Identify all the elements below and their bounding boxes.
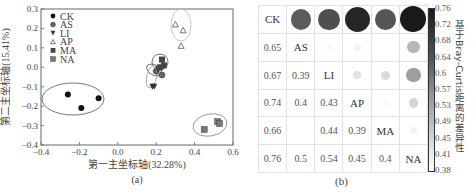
dissimilarity-value: 0.4 — [287, 90, 315, 118]
value-circle — [354, 44, 361, 51]
dissimilarity-value — [287, 117, 315, 145]
dissimilarity-circle — [372, 34, 400, 62]
dissimilarity-circle — [372, 90, 400, 118]
value-circle — [291, 9, 311, 29]
marker-na — [217, 121, 223, 127]
colorbar-tick-label: 0.68 — [435, 35, 451, 45]
marker-as — [51, 22, 56, 27]
marker-ma — [159, 57, 165, 63]
dissimilarity-circle — [400, 62, 428, 90]
colorbar-tick-label: 0.53 — [435, 100, 451, 110]
dissimilarity-circle — [400, 34, 428, 62]
panel-b-caption: (b) — [335, 175, 348, 187]
colorbar-tick-label: 0.72 — [435, 19, 451, 29]
ck-ellipse — [42, 83, 104, 115]
dissimilarity-value: 0.76 — [259, 145, 287, 173]
bray-curtis-heatmap-panel: CK0.65AS0.670.39LI0.740.40.43AP0.660.440… — [240, 0, 474, 192]
dissimilarity-circle — [343, 34, 371, 62]
dissimilarity-value: 0.39 — [287, 62, 315, 90]
marker-ck — [51, 14, 56, 19]
dissimilarity-value: 0.5 — [287, 145, 315, 173]
y-tick-label: −0.1 — [22, 82, 38, 92]
value-circle — [410, 127, 417, 134]
marker-as — [159, 72, 165, 78]
dissimilarity-circle — [372, 6, 400, 34]
y-tick-label: 0.3 — [27, 4, 39, 14]
dissimilarity-value: 0.39 — [343, 117, 371, 145]
diagonal-label-li: LI — [315, 62, 343, 90]
marker-ap — [172, 22, 178, 27]
y-tick-label: 0.1 — [27, 43, 38, 53]
dissimilarity-value: 0.67 — [259, 62, 287, 90]
y-tick-label: −0.4 — [22, 140, 39, 150]
dissimilarity-value: 0.44 — [315, 117, 343, 145]
dissimilarity-circle — [287, 6, 315, 34]
colorbar-title: 基于Bray-Curtis距离的差异性 — [452, 20, 466, 153]
value-circle — [375, 9, 396, 30]
marker-ck — [78, 105, 84, 111]
value-circle — [345, 7, 370, 32]
dissimilarity-value: 0.4 — [372, 145, 400, 173]
value-circle — [406, 68, 420, 82]
marker-ap — [178, 43, 184, 48]
diagonal-label-ap: AP — [343, 90, 371, 118]
dissimilarity-circle — [315, 6, 343, 34]
colorbar-tick-label: 0.76 — [435, 3, 451, 13]
value-circle — [409, 98, 419, 108]
marker-ap — [51, 39, 56, 43]
y-axis-label: 第二主坐标轴(15.41%) — [0, 28, 12, 126]
value-circle — [407, 41, 419, 53]
colorbar-tick-label: 0.49 — [435, 116, 451, 126]
legend: CKASLIAPMANA — [51, 11, 77, 65]
dissimilarity-value: 0.43 — [315, 90, 343, 118]
dissimilarity-circle — [400, 90, 428, 118]
value-circle — [381, 71, 390, 80]
legend-label-na: NA — [60, 54, 75, 65]
value-circle — [318, 9, 339, 30]
dissimilarity-circle — [400, 6, 428, 34]
colorbar-tick-label: 0.41 — [435, 149, 451, 159]
dissimilarity-circle — [343, 6, 371, 34]
marker-li — [51, 31, 56, 36]
heatmap-grid: CK0.65AS0.670.39LI0.740.40.43AP0.660.440… — [258, 5, 428, 173]
dissimilarity-value: 0.54 — [315, 145, 343, 173]
marker-ap — [180, 27, 186, 32]
y-tick-label: 0.2 — [27, 23, 38, 33]
x-tick-label: 0.6 — [227, 147, 239, 157]
colorbar-tick-label: 0.57 — [435, 84, 451, 94]
x-tick-label: 0.2 — [151, 147, 162, 157]
colorbar — [428, 8, 435, 172]
y-tick-label: −0.3 — [22, 121, 39, 131]
dissimilarity-value: 0.65 — [259, 34, 287, 62]
pcoa-scatter-panel: −0.4−0.20.00.20.40.6 0.30.20.10.0−0.1−0.… — [0, 0, 240, 192]
diagonal-label-as: AS — [287, 34, 315, 62]
marker-ck — [96, 95, 102, 101]
y-tick-label: −0.2 — [22, 101, 38, 111]
marker-ma — [157, 64, 163, 70]
scatter-plot: −0.4−0.20.00.20.40.6 0.30.20.10.0−0.1−0.… — [0, 0, 240, 192]
value-circle — [400, 6, 426, 32]
x-axis: −0.4−0.20.00.20.40.6 — [33, 142, 239, 157]
x-tick-label: 0.0 — [112, 147, 124, 157]
marker-na — [201, 126, 207, 132]
dissimilarity-value: 0.74 — [259, 90, 287, 118]
dissimilarity-circle — [315, 34, 343, 62]
colorbar-tick-label: 0.64 — [435, 52, 451, 62]
na-ellipse — [191, 111, 228, 139]
value-circle — [353, 71, 362, 80]
dissimilarity-circle — [372, 62, 400, 90]
x-tick-label: −0.2 — [71, 147, 87, 157]
y-tick-label: 0.0 — [27, 62, 39, 72]
colorbar-tick-label: 0.6 — [435, 68, 446, 78]
x-tick-label: 0.4 — [189, 147, 201, 157]
dissimilarity-circle — [400, 117, 428, 145]
data-points — [65, 22, 223, 133]
dissimilarity-value: 0.45 — [343, 145, 371, 173]
x-axis-label: 第一主坐标轴(32.28%) — [88, 158, 186, 171]
value-circle — [326, 44, 333, 51]
marker-na — [51, 57, 56, 62]
value-circle — [382, 100, 389, 107]
colorbar-tick-label: 0.45 — [435, 133, 451, 143]
diagonal-label-ck: CK — [259, 6, 287, 34]
colorbar-tick-label: 0.38 — [435, 165, 451, 175]
